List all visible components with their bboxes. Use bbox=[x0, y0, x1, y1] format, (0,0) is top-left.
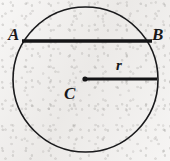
geometry-figure: A B C r bbox=[0, 0, 170, 161]
center-label-c: C bbox=[64, 85, 75, 102]
radius-label-r: r bbox=[116, 58, 122, 73]
point-label-b: B bbox=[152, 26, 163, 43]
point-label-a: A bbox=[8, 26, 19, 43]
circle-diagram-svg bbox=[0, 0, 170, 161]
center-point-dot bbox=[82, 76, 87, 81]
